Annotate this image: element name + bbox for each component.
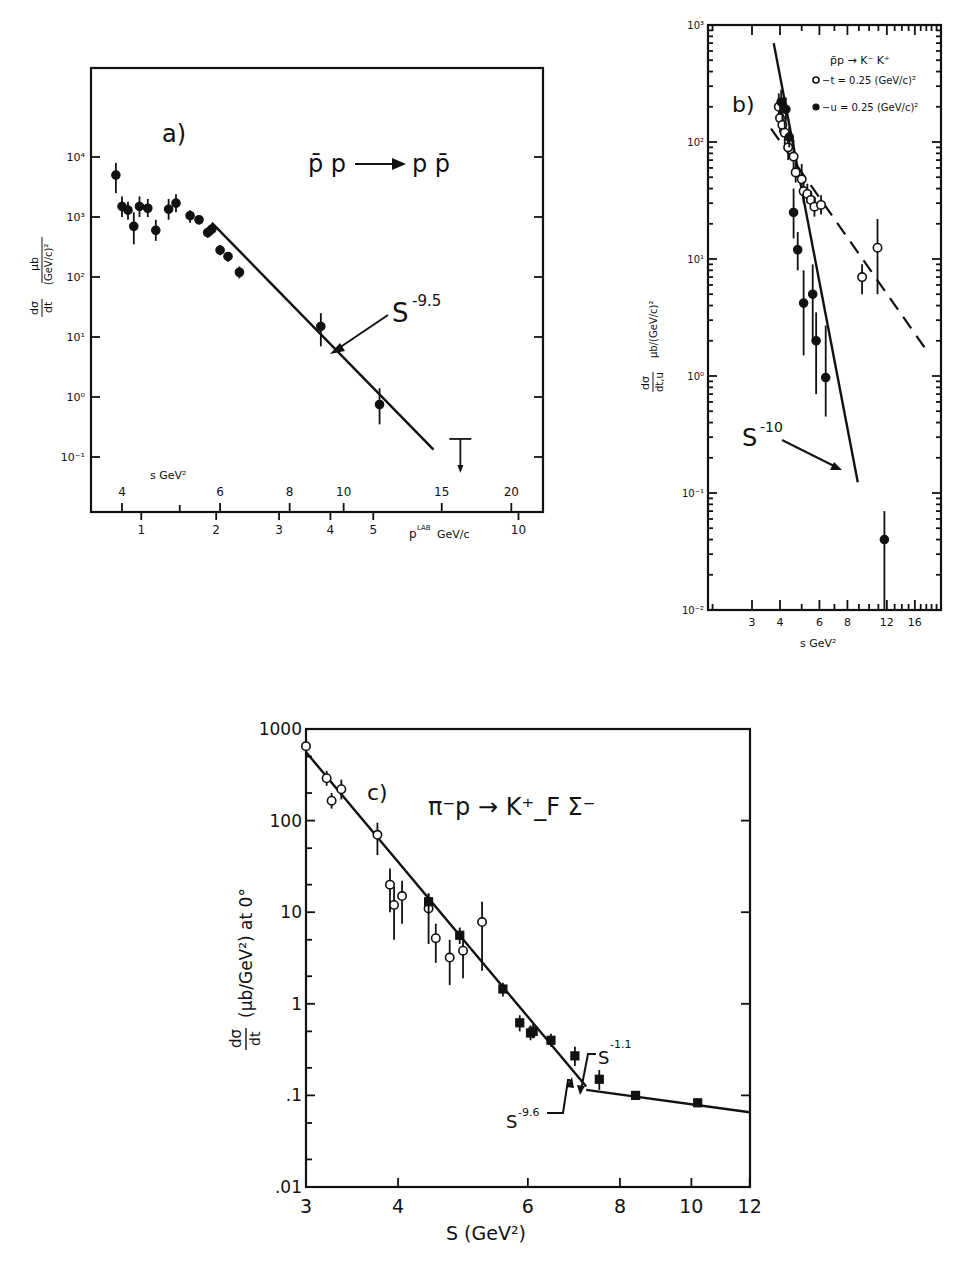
x-tick-label: 12 [738,1195,762,1217]
data-point [873,243,881,251]
data-point [459,946,467,954]
plab-axis-tick-label: 1 [137,523,145,537]
data-point [445,953,453,961]
data-point [144,204,152,212]
plab-axis-tick-label: 3 [275,523,283,537]
data-point [595,1075,603,1083]
arrow-head-icon [392,158,406,170]
panel-c-reaction-title: π⁻p → K⁺_F Σ⁻ [428,793,595,821]
x-tick-label: 8 [614,1195,626,1217]
legend-filled-circle-icon [813,104,819,110]
panel-c-y-axis: 1000100101.1.01 [259,719,750,1197]
panel-b-plot: 10³10²10¹10⁰10⁻¹10⁻² 34681216 b) p̄p → K… [639,20,941,651]
data-point [478,918,486,926]
panel-a-x-label-unit: GeV/c [437,528,470,541]
data-point [186,212,194,220]
data-point [390,901,398,909]
x-tick-label: 10 [679,1195,703,1217]
data-point [547,1036,555,1044]
panel-b-fit-exp: -10 [760,419,783,435]
data-point [809,290,817,298]
panel-c-fit-steep-base: S [506,1111,517,1132]
y-tick-label: 10³ [687,20,704,31]
panel-c-reaction: π⁻p → K⁺_F Σ⁻ [428,793,595,821]
y-tick-label: 1000 [259,719,302,739]
data-point [152,226,160,234]
data-point [784,143,792,151]
data-point [375,400,383,408]
data-point [789,152,797,160]
y-tick-label: 10¹ [687,254,704,265]
panel-c-fit-flat-base: S [598,1047,609,1068]
plab-axis-tick-label: 4 [327,523,335,537]
x-tick-label: 6 [816,616,823,629]
s-axis-tick-label: 20 [504,485,519,499]
data-point [235,268,243,276]
panel-a-reaction-lhs: p̄ p [308,150,346,178]
panel-b-label: b) [732,92,755,117]
panel-a-fit-base: S [392,298,409,328]
figure-canvas: 10⁴10³10²10¹10⁰10⁻¹ 4681015201234510 a) … [0,0,972,1280]
data-point [694,1099,702,1107]
panel-c-x-label: S (GeV²) [446,1222,526,1244]
data-point [327,796,335,804]
data-point [785,133,793,141]
annotation-leader-icon [547,1080,570,1113]
y-tick-label: 10 [280,902,302,922]
y-tick-label: 10² [687,137,704,148]
panel-b-dashed-fit [771,129,929,354]
data-point [432,934,440,942]
y-tick-label: 10³ [67,211,85,224]
dashed-fit-line [771,129,929,354]
data-point [124,206,132,214]
panel-a-label: a) [162,120,186,148]
panel-b-y-label-den: dt,u [654,372,665,392]
panel-b-fit-base: S [742,424,757,452]
y-tick-label: 10⁻¹ [61,451,85,464]
panel-b-y-label: dσ dt,u μb/(GeV/c)² [639,301,665,393]
panel-b-y-label-unit: μb/(GeV/c)² [648,301,659,359]
legend-open-circle-icon [813,77,819,83]
panel-a-x-label-top: s GeV² [150,469,186,482]
data-point [499,985,507,993]
data-point [130,222,138,230]
panel-a-plot: 10⁴10³10²10¹10⁰10⁻¹ 4681015201234510 a) … [28,68,543,541]
data-point [425,898,433,906]
panel-a-y-label: dσ dt μb (GeV/c)² [28,237,55,317]
s-axis-tick-label: 6 [216,485,224,499]
data-point [317,322,325,330]
panel-c-y-label: dσ dt (μb/GeV²) at 0° [227,888,263,1050]
panel-a-x-label-bottom: p LAB GeV/c [409,524,470,541]
plab-axis-tick-label: 5 [369,523,377,537]
panel-a-data-points [112,163,472,473]
panel-b-fit-annotation: S -10 [742,419,842,470]
data-point [516,1019,524,1027]
panel-c-y-label-den: dt [247,1031,263,1046]
panel-c-fit-steep-exp: -9.6 [518,1106,539,1119]
data-point [216,246,224,254]
x-tick-label: 16 [908,616,922,629]
data-point [789,208,797,216]
data-point [632,1091,640,1099]
panel-a-y-label-unit-num: μb [28,257,41,271]
data-point [224,252,232,260]
panel-b-legend: p̄p → K⁻ K⁺ −t = 0.25 (GeV/c)² −u = 0.25… [813,54,918,113]
panel-a-reaction-rhs: p p̄ [412,150,450,178]
data-point [794,246,802,254]
y-tick-label: 10⁻² [682,605,704,616]
panel-a-y-label-num: dσ [28,301,41,315]
panel-a-frame [91,68,543,512]
x-tick-label: 12 [880,616,894,629]
arrow-head-icon [457,465,463,473]
panel-a-fit-annotation: S -9.5 [330,292,441,354]
data-point [791,168,799,176]
data-point [322,774,330,782]
x-tick-label: 4 [776,616,783,629]
data-point [529,1027,537,1035]
panel-c-x-axis: 34681012 [300,1178,762,1217]
annotation-arrow-icon [336,315,388,350]
power-law-fit [586,1090,750,1112]
panel-a-x-label-sup: LAB [417,524,431,532]
panel-c-label: c) [367,780,388,805]
panel-a-reaction-title: p̄ p p p̄ [308,150,450,178]
